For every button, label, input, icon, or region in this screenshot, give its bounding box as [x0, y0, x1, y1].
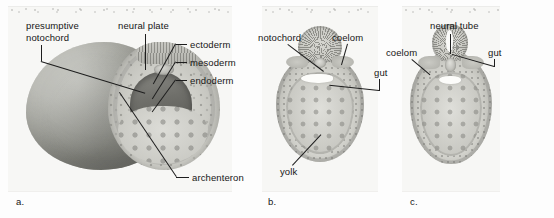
- leader-mesoderm-dash: [176, 62, 187, 63]
- leader-endoderm-dash: [176, 80, 187, 81]
- label-yolk-b: yolk: [280, 166, 297, 178]
- label-ectoderm: ectoderm: [190, 39, 230, 51]
- neurulation-figure: presumptive notochord neural plate ectod…: [0, 0, 554, 218]
- caption-c: c.: [410, 196, 418, 207]
- caption-a: a.: [16, 196, 24, 207]
- gut-cavity-c: [439, 76, 461, 84]
- label-gut-c: gut: [488, 47, 502, 59]
- caption-b: b.: [268, 196, 276, 207]
- embryo-illustration-c: [402, 6, 500, 192]
- leader-neural-plate: [145, 34, 146, 70]
- panel-c: neural tube coelom gut: [402, 6, 500, 192]
- label-coelom-c: coelom: [386, 47, 417, 59]
- label-presumptive-notochord: presumptive notochord: [26, 20, 79, 43]
- panel-a: presumptive notochord neural plate ectod…: [8, 6, 232, 192]
- label-neural-plate: neural plate: [118, 20, 169, 32]
- panel-b: notochord coelom gut yolk: [262, 6, 378, 192]
- notochord-c: [445, 58, 456, 72]
- gut-cavity-b: [301, 74, 333, 83]
- label-notochord-b: notochord: [258, 32, 301, 44]
- leader-archenteron-dash: [176, 177, 189, 178]
- label-endoderm: endoderm: [190, 75, 234, 87]
- leader-ectoderm-dash: [176, 44, 187, 45]
- leader-neural-tube-c: [450, 34, 451, 54]
- leader-presumptive-notochord-v: [41, 45, 42, 61]
- label-neural-tube-c: neural tube: [430, 20, 479, 32]
- label-gut-b: gut: [374, 67, 388, 79]
- label-mesoderm: mesoderm: [190, 57, 236, 69]
- label-archenteron: archenteron: [192, 172, 244, 184]
- label-coelom-b: coelom: [332, 32, 363, 44]
